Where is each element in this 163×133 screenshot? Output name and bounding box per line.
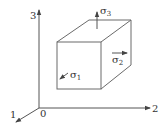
sigma-2-label: σ2 xyxy=(112,54,123,67)
sigma-3-group: σ3 xyxy=(97,5,111,29)
axis-1-label: 1 xyxy=(10,109,16,120)
sigma-1-label: σ1 xyxy=(70,69,81,82)
sigma-2-group: σ2 xyxy=(112,53,127,67)
axis-3-label: 3 xyxy=(30,10,36,21)
cube-top-face xyxy=(57,20,131,42)
stress-cube-diagram: 3 2 1 0 σ3 σ2 σ1 xyxy=(0,0,163,133)
sigma-1-arrow-icon xyxy=(60,73,68,79)
sigma-1-group: σ1 xyxy=(60,69,81,82)
axis-1-line xyxy=(16,108,39,122)
origin-label: 0 xyxy=(40,108,46,119)
coordinate-axes: 3 2 1 0 xyxy=(10,10,158,122)
sigma-3-label: σ3 xyxy=(100,5,111,18)
axis-2-label: 2 xyxy=(152,103,158,114)
stress-element-cube xyxy=(57,20,131,89)
